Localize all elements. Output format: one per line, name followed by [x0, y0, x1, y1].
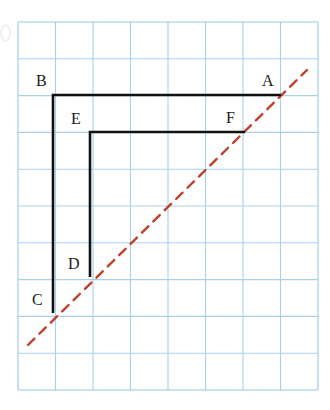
scan-edge-artifact: [1, 25, 10, 41]
point-label-e: E: [71, 111, 81, 127]
point-label-d: D: [68, 256, 80, 272]
figure-canvas: ABCDEF: [0, 0, 330, 410]
point-label-f: F: [226, 110, 235, 126]
point-label-c: C: [32, 292, 43, 308]
point-label-b: B: [36, 73, 47, 89]
point-label-a: A: [262, 73, 274, 89]
geometry-figure-svg: [0, 0, 330, 410]
